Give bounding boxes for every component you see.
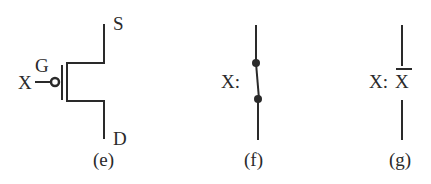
gate-label-g: G xyxy=(35,55,49,76)
bottom-contact-dot-icon xyxy=(254,95,262,103)
caption-f: (f) xyxy=(244,149,263,171)
switch-contact-closed xyxy=(256,63,259,99)
panel-f-closed-switch: X: (f) xyxy=(221,25,263,171)
panel-g-open-switch: X: X (g) xyxy=(369,25,412,171)
input-label-x: X xyxy=(18,72,32,93)
caption-e: (e) xyxy=(93,149,114,171)
source-label-s: S xyxy=(113,13,124,34)
switch-models-diagram: X G S D (e) X: (f) X: X (g) xyxy=(0,0,431,184)
caption-g: (g) xyxy=(389,149,411,171)
inversion-bubble-icon xyxy=(51,78,59,86)
open-switch-input-label: X: xyxy=(369,71,388,92)
top-contact-dot-icon xyxy=(252,59,260,67)
complement-x-label: X xyxy=(395,71,409,92)
switch-input-label: X: xyxy=(221,71,240,92)
drain-label-d: D xyxy=(113,128,127,149)
panel-e-pmos: X G S D (e) xyxy=(18,13,127,171)
